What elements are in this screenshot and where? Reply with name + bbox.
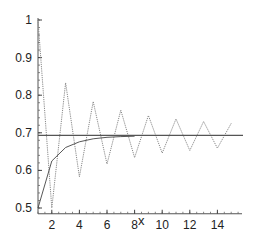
series-monotone-curve xyxy=(38,136,135,208)
y-tick-label: 0.9 xyxy=(15,51,32,65)
y-tick-label: 0.8 xyxy=(15,88,32,102)
x-tick-label: 12 xyxy=(183,218,197,232)
x-axis-label: x xyxy=(138,213,145,228)
x-tick-label: 6 xyxy=(104,218,111,232)
series-oscillating-partial-sums xyxy=(38,20,231,208)
y-tick-label: 0.6 xyxy=(15,163,32,177)
chart: 0.50.60.70.80.912468101214 x xyxy=(0,0,257,243)
axes xyxy=(38,18,242,214)
x-tick-label: 4 xyxy=(76,218,83,232)
x-tick-label: 10 xyxy=(156,218,170,232)
y-tick-label: 0.7 xyxy=(15,126,32,140)
x-tick-label: 14 xyxy=(211,218,225,232)
y-tick-label: 1 xyxy=(25,13,32,27)
y-tick-label: 0.5 xyxy=(15,201,32,215)
series xyxy=(38,20,243,208)
x-tick-label: 2 xyxy=(48,218,55,232)
ticks: 0.50.60.70.80.912468101214 xyxy=(15,13,238,232)
